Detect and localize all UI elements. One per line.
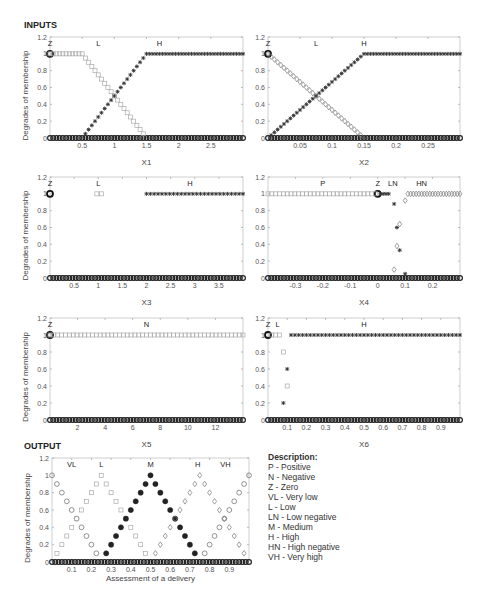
y-tick-label: 0.8	[37, 67, 47, 74]
x-tick-label: 1	[112, 142, 116, 149]
x-tick-label: 0.2	[391, 142, 401, 149]
term-label: VH	[220, 460, 230, 469]
series-h	[83, 52, 245, 136]
description-item: L - Low	[268, 502, 340, 512]
term-label: Z	[48, 39, 53, 48]
x-tick-label: 2.5	[206, 142, 216, 149]
y-tick-label: 0	[261, 275, 265, 282]
y-axis-label: Degrades of membership	[21, 50, 30, 140]
description-legend: Description: P - PositiveN - NegativeZ -…	[268, 452, 340, 562]
chart-x3: 00.20.40.60.811.20.511.522.533.5X3Degrad…	[21, 174, 245, 308]
term-label: Z	[266, 320, 271, 329]
series-vl	[50, 473, 99, 556]
x-tick-label: 0.1	[327, 142, 337, 149]
term-label: L	[314, 39, 318, 48]
x-tick-label: 1.5	[118, 282, 128, 289]
y-tick-label: 0.2	[37, 258, 47, 265]
y-tick-label: 1.2	[37, 315, 47, 322]
y-tick-label: 0	[261, 417, 265, 424]
y-tick-label: 1.2	[255, 174, 265, 181]
x-tick-label: 0.4	[340, 424, 350, 431]
x-tick-label: 0.1	[67, 566, 77, 573]
y-tick-label: 0.2	[255, 258, 265, 265]
y-tick-label: 1.2	[255, 315, 265, 322]
y-tick-label: 0	[45, 559, 49, 566]
y-tick-label: 1.2	[39, 455, 49, 462]
term-label: H	[195, 460, 200, 469]
series-vh	[202, 473, 251, 556]
x-axis-label: X5	[142, 440, 152, 449]
y-tick-label: 0.4	[39, 524, 49, 531]
y-tick-label: 0.8	[255, 67, 265, 74]
x-tick-label: 0.15	[357, 142, 371, 149]
y-tick-label: 0	[43, 417, 47, 424]
y-tick-label: 0.4	[37, 383, 47, 390]
y-tick-label: 1.2	[37, 174, 47, 181]
description-item: VL - Very low	[268, 492, 340, 502]
description-title: Description:	[268, 452, 340, 462]
x-tick-label: 0.6	[165, 566, 175, 573]
term-label: H	[157, 39, 162, 48]
x-tick-label: 1	[96, 282, 100, 289]
term-label: L	[96, 179, 100, 188]
x-tick-label: 0.05	[293, 142, 307, 149]
series-p	[266, 192, 378, 196]
x-axis-label: Assessment of a delivery	[106, 574, 195, 583]
x-tick-label: 3	[193, 282, 197, 289]
x-tick-label: 0.3	[106, 566, 116, 573]
description-item: H - High	[268, 532, 340, 542]
x-tick-label: 0.5	[146, 566, 156, 573]
y-tick-label: 1	[261, 190, 265, 197]
y-tick-label: 0.8	[37, 349, 47, 356]
x-tick-label: 10	[184, 424, 192, 431]
y-tick-label: 0.6	[37, 84, 47, 91]
x-tick-label: 1.5	[142, 142, 152, 149]
y-tick-label: 0	[43, 135, 47, 142]
term-label: H	[187, 179, 192, 188]
description-item: LN - Low negative	[268, 512, 340, 522]
x-tick-label: 8	[158, 424, 162, 431]
term-label: L	[96, 39, 100, 48]
description-item: P - Positive	[268, 462, 340, 472]
x-axis-label: X3	[142, 298, 152, 307]
x-tick-label: 0.25	[421, 142, 435, 149]
x-tick-label: 0.2	[428, 282, 438, 289]
y-tick-label: 0.8	[255, 207, 265, 214]
term-label: N	[144, 320, 149, 329]
x-tick-label: 0.2	[302, 424, 312, 431]
y-tick-label: 0.4	[37, 241, 47, 248]
term-label: L	[99, 460, 103, 469]
chart-x4: 00.20.40.60.811.2-0.3-0.2-0.100.10.2X4PZ…	[255, 174, 462, 308]
y-tick-label: 0.6	[37, 366, 47, 373]
y-tick-label: 0.4	[255, 241, 265, 248]
membership-charts: 00.20.40.60.811.20.511.522.5X1Degrades o…	[0, 0, 484, 600]
chart-x2: 00.20.40.60.811.20.050.10.150.20.25X2ZLH	[255, 34, 462, 168]
x-tick-label: 0.5	[77, 142, 87, 149]
term-label: P	[320, 179, 325, 188]
y-tick-label: 0.2	[39, 541, 49, 548]
y-tick-label: 0.4	[37, 101, 47, 108]
series-ln	[378, 192, 407, 276]
x-axis-label: X2	[359, 158, 369, 167]
series-h	[281, 333, 462, 405]
y-axis-label: Degrades of membership	[21, 190, 30, 280]
y-tick-label: 0.6	[39, 507, 49, 514]
y-tick-label: 0	[43, 275, 47, 282]
y-tick-label: 0.4	[255, 101, 265, 108]
x-tick-label: 0.2	[87, 566, 97, 573]
y-tick-label: 0.6	[255, 224, 265, 231]
x-axis-label: X1	[142, 158, 152, 167]
x-tick-label: -0.3	[289, 282, 301, 289]
series-l	[48, 52, 145, 136]
series-h	[153, 473, 246, 557]
series-l	[95, 192, 104, 196]
y-tick-label: 0.8	[255, 349, 265, 356]
y-tick-label: 1.2	[255, 34, 265, 41]
y-tick-label: 0.6	[255, 84, 265, 91]
chart-x5: 00.20.40.60.811.224681012X5Degrades of m…	[21, 315, 245, 450]
x-tick-label: 3.5	[214, 282, 224, 289]
x-tick-label: 0	[376, 282, 380, 289]
description-item: Z - Zero	[268, 482, 340, 492]
y-tick-label: 0.2	[255, 118, 265, 125]
chart-x6: 00.20.40.60.811.20.10.20.30.40.50.60.70.…	[255, 315, 462, 450]
